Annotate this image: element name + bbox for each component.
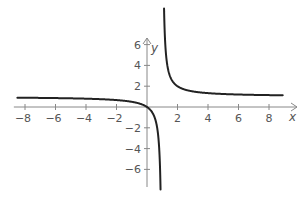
function-graph: −8−6−4−22468−6−4−2246 x y bbox=[0, 0, 308, 198]
x-tick-label: −8 bbox=[15, 112, 31, 125]
x-axis-label: x bbox=[288, 110, 297, 124]
x-tick-label: 6 bbox=[235, 112, 242, 125]
x-tick-label: −2 bbox=[106, 112, 122, 125]
x-tick-label: 8 bbox=[266, 112, 273, 125]
x-tick-label: −4 bbox=[76, 112, 92, 125]
y-tick-label: 2 bbox=[134, 80, 141, 93]
y-tick-label: −6 bbox=[125, 163, 141, 176]
y-tick-label: −4 bbox=[125, 143, 141, 156]
x-tick-label: −6 bbox=[45, 112, 61, 125]
y-tick-label: 6 bbox=[134, 39, 141, 52]
y-tick-label: 4 bbox=[134, 59, 141, 72]
y-axis-label: y bbox=[150, 41, 159, 55]
curve-group bbox=[17, 8, 282, 189]
curve-right-branch bbox=[164, 8, 283, 95]
x-tick-label: 4 bbox=[205, 112, 212, 125]
x-tick-label: 2 bbox=[174, 112, 181, 125]
y-tick-label: −2 bbox=[125, 122, 141, 135]
